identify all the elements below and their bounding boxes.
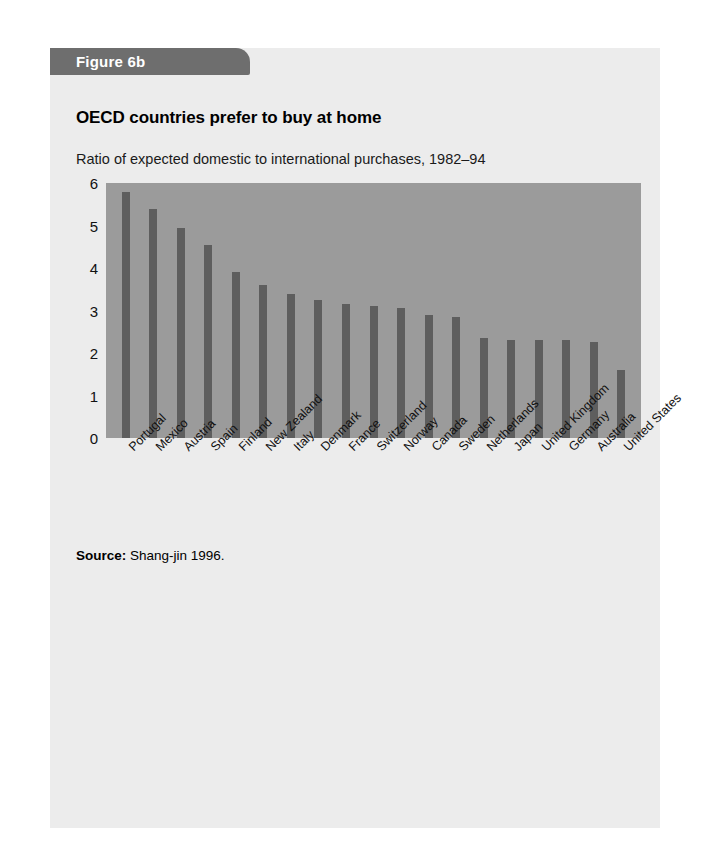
source-label: Source: xyxy=(76,548,126,563)
y-axis-tick: 5 xyxy=(90,218,98,233)
figure-card: Figure 6b OECD countries prefer to buy a… xyxy=(50,48,660,828)
bar-slot xyxy=(442,183,470,438)
bar-slot xyxy=(470,183,498,438)
bar-slot xyxy=(497,183,525,438)
bar xyxy=(314,300,322,438)
bar xyxy=(177,228,185,438)
y-axis: 0123456 xyxy=(76,183,102,438)
figure-tab: Figure 6b xyxy=(50,48,250,75)
bar-slot xyxy=(277,183,305,438)
source-text: Shang-jin 1996. xyxy=(130,548,225,563)
source-line: Source: Shang-jin 1996. xyxy=(76,548,225,563)
bar-slot xyxy=(167,183,195,438)
bar-slot xyxy=(360,183,388,438)
bar-slot xyxy=(140,183,168,438)
bar-slot xyxy=(332,183,360,438)
y-axis-tick: 6 xyxy=(90,176,98,191)
bar-slot xyxy=(195,183,223,438)
y-axis-tick: 4 xyxy=(90,261,98,276)
bar-slot xyxy=(553,183,581,438)
bar xyxy=(149,209,157,439)
y-axis-tick: 3 xyxy=(90,303,98,318)
chart-subtitle: Ratio of expected domestic to internatio… xyxy=(76,151,485,167)
bar xyxy=(204,245,212,438)
bar-slot xyxy=(250,183,278,438)
chart-title: OECD countries prefer to buy at home xyxy=(76,108,381,128)
bar-slot xyxy=(608,183,636,438)
y-axis-tick: 2 xyxy=(90,346,98,361)
bar xyxy=(232,272,240,438)
figure-tab-label: Figure 6b xyxy=(76,53,145,70)
chart-plot-wrapper: 0123456 PortugalMexicoAustriaSpainFinlan… xyxy=(76,183,641,458)
plot-area xyxy=(106,183,641,438)
bar-slot xyxy=(112,183,140,438)
y-axis-tick: 1 xyxy=(90,388,98,403)
bar xyxy=(122,192,130,439)
y-axis-tick: 0 xyxy=(90,431,98,446)
bar-slot xyxy=(387,183,415,438)
x-axis-labels: PortugalMexicoAustriaSpainFinlandNew Zea… xyxy=(106,438,641,558)
bar-slot xyxy=(222,183,250,438)
